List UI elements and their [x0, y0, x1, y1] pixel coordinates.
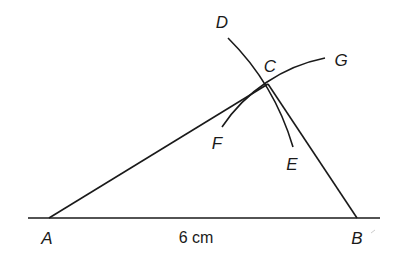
arc-de [228, 38, 293, 147]
label-f: F [212, 135, 222, 152]
label-a: A [41, 230, 52, 247]
diagram-svg [0, 0, 396, 262]
side-ac [49, 84, 268, 218]
label-e: E [286, 156, 297, 173]
label-c: C [264, 58, 276, 75]
side-bc [268, 84, 357, 218]
label-g: G [334, 52, 347, 69]
stray-mark [371, 230, 375, 233]
construction-diagram: A B C D E F G 6 cm [0, 0, 396, 262]
base-length-label: 6 cm [179, 230, 214, 246]
label-b: B [351, 230, 362, 247]
label-d: D [216, 14, 228, 31]
